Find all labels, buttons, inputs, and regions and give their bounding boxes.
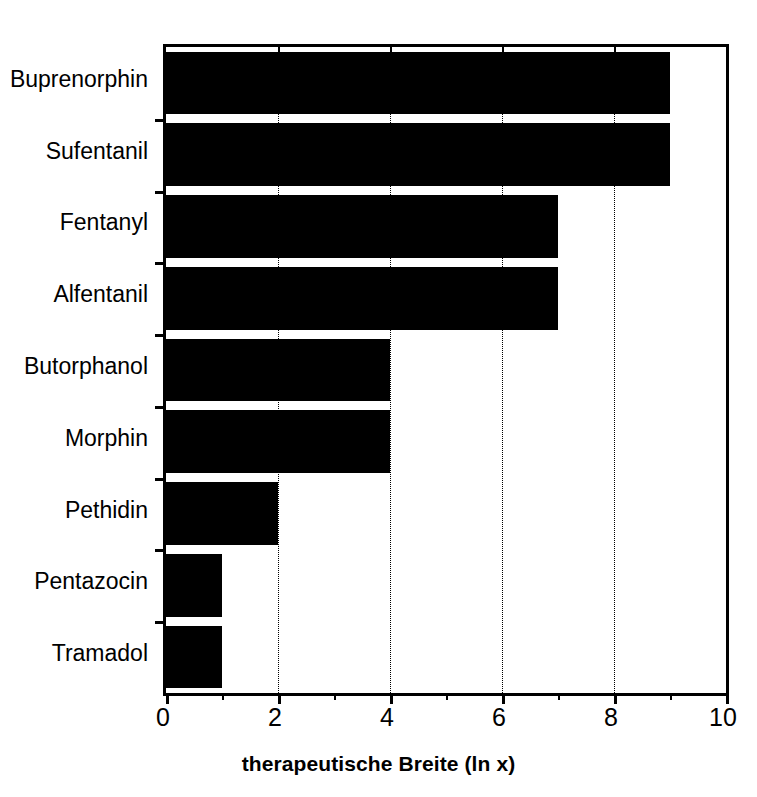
- x-axis-minor-tick-5: [446, 693, 448, 700]
- y-axis-category-tick: [155, 119, 166, 122]
- y-axis-label-tramadol: Tramadol: [52, 642, 148, 665]
- x-axis-title: therapeutische Breite (ln x): [0, 752, 757, 776]
- x-axis-minor-tick-7: [558, 693, 560, 700]
- y-axis-label-pentazocin: Pentazocin: [34, 570, 148, 593]
- y-axis-label-alfentanil: Alfentanil: [53, 283, 148, 306]
- x-axis-tick-labels: 0246810: [163, 705, 723, 739]
- x-axis-tick-label-6: 6: [492, 705, 506, 730]
- x-axis-tick-label-0: 0: [156, 705, 170, 730]
- bar-chart-figure: BuprenorphinSufentanilFentanylAlfentanil…: [0, 0, 757, 797]
- bar: [166, 554, 222, 617]
- y-axis-category-tick: [155, 621, 166, 624]
- bar: [166, 195, 558, 258]
- bar: [166, 626, 222, 689]
- y-axis-label-sufentanil: Sufentanil: [46, 140, 148, 163]
- bar: [166, 339, 390, 402]
- x-axis-tick-label-2: 2: [268, 705, 282, 730]
- y-axis-label-butorphanol: Butorphanol: [24, 355, 148, 378]
- y-axis-category-tick: [155, 406, 166, 409]
- plot-area: [163, 44, 729, 696]
- bar: [166, 410, 390, 473]
- x-axis-minor-tick-1: [222, 693, 224, 700]
- y-axis-label-buprenorphin: Buprenorphin: [10, 68, 148, 91]
- bar: [166, 482, 278, 545]
- x-axis-tick-label-8: 8: [604, 705, 618, 730]
- y-axis-category-tick: [155, 262, 166, 265]
- y-axis-category-tick: [155, 478, 166, 481]
- bar: [166, 267, 558, 330]
- bar: [166, 123, 670, 186]
- y-axis-category-tick: [155, 549, 166, 552]
- y-axis-label-fentanyl: Fentanyl: [60, 211, 148, 234]
- y-axis-category-tick: [155, 191, 166, 194]
- x-axis-tick-label-4: 4: [380, 705, 394, 730]
- y-axis-category-labels: BuprenorphinSufentanilFentanylAlfentanil…: [0, 44, 148, 690]
- x-axis-minor-tick-9: [670, 693, 672, 700]
- bar: [166, 52, 670, 115]
- y-axis-label-morphin: Morphin: [65, 427, 148, 450]
- x-axis-tick-label-10: 10: [709, 705, 737, 730]
- y-axis-label-pethidin: Pethidin: [65, 499, 148, 522]
- x-axis-minor-tick-3: [334, 693, 336, 700]
- y-axis-category-tick: [155, 334, 166, 337]
